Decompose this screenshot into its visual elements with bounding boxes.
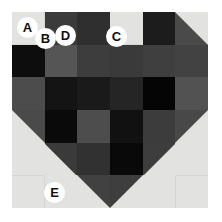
mosaic-cell-r3c6 — [175, 77, 208, 110]
mosaic-cell-r4c2 — [45, 110, 78, 143]
mosaic-cell-r4c3 — [77, 110, 110, 143]
mosaic-cell-r3c5 — [143, 77, 176, 110]
silhouette-bottom-point-right — [110, 175, 143, 208]
silhouette-right-taper-lower — [143, 143, 176, 176]
silhouette-top-right-lobe-corner — [175, 12, 208, 45]
label-badge-e[interactable]: E — [44, 182, 65, 203]
mosaic-cell-r1c5 — [143, 12, 176, 45]
mosaic-cell-r3c2 — [45, 77, 78, 110]
mosaic-cell-r4c4 — [110, 110, 143, 143]
label-badge-b[interactable]: B — [35, 28, 56, 49]
mosaic-cell-r3c3 — [77, 77, 110, 110]
mosaic-cell-r5c4 — [110, 143, 143, 176]
mosaic-cell-r3c4 — [110, 77, 143, 110]
silhouette-left-taper — [12, 110, 45, 143]
mosaic-cell-r2c3 — [77, 45, 110, 78]
label-badge-c[interactable]: C — [106, 26, 127, 47]
mosaic-cell-r2c5 — [143, 45, 176, 78]
label-badge-d[interactable]: D — [55, 25, 76, 46]
mosaic-cell-r4c5 — [143, 110, 176, 143]
mosaic-cell-r2c4 — [110, 45, 143, 78]
mosaic-cell-r3c1 — [12, 77, 45, 110]
silhouette-bottom-point-left — [77, 175, 110, 208]
silhouette-right-taper — [175, 110, 208, 143]
mosaic-cell-r2c2 — [45, 45, 78, 78]
mosaic-cell-r2c6 — [175, 45, 208, 78]
figure-root: A B D C E — [0, 0, 222, 222]
mosaic-cell-r2c1 — [12, 45, 45, 78]
mosaic-cell-r5c3 — [77, 143, 110, 176]
silhouette-left-taper-lower — [44, 143, 77, 176]
mosaic-cell-r1c3 — [77, 12, 110, 45]
